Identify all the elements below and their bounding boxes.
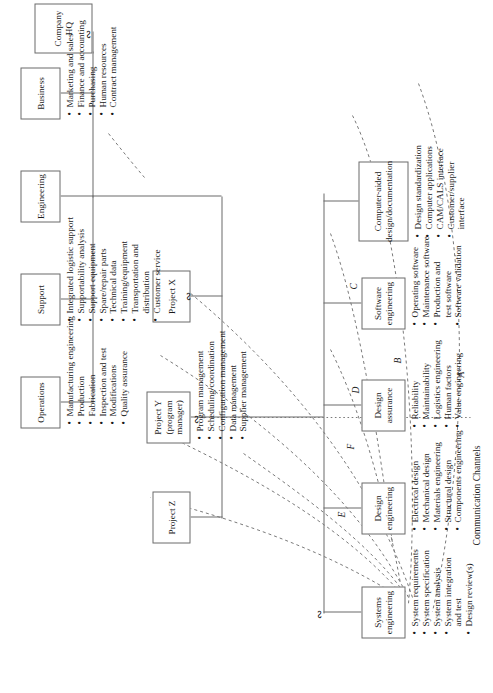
bullets-design-assurance: ReliabilityMaintainabilityLogistics engi…: [409, 340, 463, 427]
bullet-item: CAM/CALS interface: [434, 145, 445, 237]
bullet-item: Modifications: [107, 316, 118, 424]
node-project-z-label: Project Z: [166, 500, 177, 534]
node-support[interactable]: Support: [20, 273, 60, 325]
bullet-item: System analysis: [431, 549, 442, 634]
node-design-engineering[interactable]: Design engineering: [361, 482, 405, 534]
bullet-item: Mechanical design: [420, 430, 431, 530]
node-cad-documentation-sublabel: design/documentation: [383, 160, 394, 241]
bullet-item: distribution: [140, 217, 151, 321]
bullet-item: Materials engineering: [431, 430, 442, 530]
bullet-item: Quality assurance: [118, 316, 129, 424]
bullet-item: Spare/repair parts: [97, 217, 108, 321]
channel-label-f: F: [345, 443, 355, 449]
node-engineering[interactable]: Engineering: [20, 170, 60, 222]
org-chart-canvas: ∾ ∾ ∾ ∾ Company HQ Business Engineering …: [0, 0, 493, 693]
node-project-y[interactable]: Project Y (program manager): [146, 391, 190, 443]
bullet-item: Software validation: [452, 236, 463, 325]
bullets-cad-documentation: Design standardizationComputer applicati…: [412, 145, 466, 237]
node-operations[interactable]: Operations: [20, 376, 60, 428]
bullets-support: Integrated logistic supportSupportabilit…: [64, 217, 162, 321]
node-design-assurance-sublabel: assurance: [383, 387, 394, 423]
node-business-label: Business: [35, 77, 46, 110]
bullet-item: Components engineering: [452, 430, 463, 530]
bullet-item: Scheduling/coordination: [205, 330, 216, 439]
node-systems-engineering[interactable]: Systems engineering: [361, 586, 405, 638]
bullet-item: Structural design: [442, 430, 453, 530]
bullet-item: Operating software: [409, 236, 420, 325]
bullet-item: Computer applications: [423, 145, 434, 237]
node-cad-documentation[interactable]: Computer-aided design/documentation: [358, 161, 408, 241]
bullet-item: Marketing and sales: [64, 20, 75, 115]
channel-label-b: B: [392, 357, 402, 363]
node-project-z[interactable]: Project Z: [152, 491, 190, 543]
bullet-item: test software: [442, 236, 453, 325]
bullet-item: Production: [75, 316, 86, 424]
bullet-item: Human resources: [97, 20, 108, 115]
squiggle-mark-projecty: ∾: [190, 414, 201, 423]
bullet-item: Manufacturing engineering: [64, 316, 75, 424]
bullet-item: Contract management: [107, 20, 118, 115]
node-cad-documentation-label: Computer-aided: [372, 171, 383, 231]
node-software-engineering[interactable]: Software engineering: [361, 277, 405, 329]
bullet-item: Data management: [227, 330, 238, 439]
bullet-item: interface: [455, 145, 466, 237]
bullet-item: Configuration management: [216, 330, 227, 439]
node-systems-engineering-sublabel: engineering: [383, 590, 394, 633]
node-operations-label: Operations: [35, 382, 46, 422]
node-systems-engineering-label: Systems: [372, 597, 383, 628]
bullet-item: Training/equipment: [118, 217, 129, 321]
bullet-item: System specification: [420, 549, 431, 634]
bullet-item: Design review(s): [463, 549, 474, 634]
bullets-software-engineering: Operating softwareMaintenance softwarePr…: [409, 236, 463, 325]
squiggle-mark-projects: ∾: [182, 291, 193, 300]
squiggle-mark-hq: ∾: [82, 29, 93, 38]
bullet-item: System integration: [442, 549, 453, 634]
bullet-item: Production and: [431, 236, 442, 325]
bullet-item: Transportation and: [129, 217, 140, 321]
channel-label-a: A: [455, 371, 465, 377]
node-design-assurance[interactable]: Design assurance: [361, 379, 405, 431]
node-design-engineering-sublabel: engineering: [383, 486, 394, 529]
bullet-item: Integrated logistic support: [64, 217, 75, 321]
bullet-item: Electrical design: [409, 430, 420, 530]
bullet-item: Value engineering: [452, 340, 463, 427]
bullets-operations: Manufacturing engineeringProductionFabri…: [64, 316, 129, 424]
channel-label-e: E: [336, 511, 346, 517]
bullet-item: Technical data: [107, 217, 118, 321]
node-project-y-sublabel: (program manager): [163, 394, 184, 440]
bullet-item: Customer service: [151, 217, 162, 321]
bullet-item: Design standardization: [412, 145, 423, 237]
bullet-item: Supplier management: [237, 330, 248, 439]
bullets-design-engineering: Electrical designMechanical designMateri…: [409, 430, 463, 530]
node-project-y-label: Project Y: [152, 400, 163, 435]
node-project-x-label: Project X: [166, 279, 177, 314]
communication-channels-label: Communication Channels: [470, 445, 481, 545]
bullets-project-y: Program managementScheduling/coordinatio…: [194, 330, 248, 439]
node-software-engineering-sublabel: engineering: [383, 281, 394, 324]
bullet-item: and test: [452, 549, 463, 634]
channel-label-d: D: [350, 386, 360, 393]
node-business[interactable]: Business: [20, 67, 60, 119]
channel-label-c: C: [348, 283, 358, 289]
bullets-systems-engineering: System requirementsSystem specificationS…: [409, 549, 474, 634]
bullet-item: Maintainability: [420, 340, 431, 427]
bullet-item: Supportability analysis: [75, 217, 86, 321]
bullet-item: Fabrication: [86, 316, 97, 424]
bullet-item: System requirements: [409, 549, 420, 634]
bullet-item: Reliability: [409, 340, 420, 427]
bullet-item: Maintenance software: [420, 236, 431, 325]
bullet-item: Logistics engineering: [431, 340, 442, 427]
bullet-item: Human factors: [442, 340, 453, 427]
bullet-item: Inspection and test: [97, 316, 108, 424]
node-software-engineering-label: Software: [372, 286, 383, 319]
bullet-item: Customer/supplier: [445, 145, 456, 237]
node-support-label: Support: [35, 284, 46, 313]
node-design-assurance-label: Design: [372, 392, 383, 418]
bullet-item: Support equipment: [86, 217, 97, 321]
diagram-stage: ∾ ∾ ∾ ∾ Company HQ Business Engineering …: [0, 0, 493, 693]
node-engineering-label: Engineering: [35, 174, 46, 219]
channel-arc-operations: [108, 133, 144, 177]
node-design-engineering-label: Design: [372, 495, 383, 521]
squiggle-mark-functions: ∾: [313, 609, 324, 618]
